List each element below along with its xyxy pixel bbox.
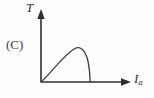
y-axis-arrowhead [37, 9, 44, 19]
torque-curve [41, 48, 90, 82]
axes-group [37, 9, 131, 86]
figure-option-c: (C) T Ia [0, 0, 154, 98]
y-axis-label: T [26, 0, 33, 16]
x-axis-label-subscript: a [138, 77, 143, 87]
option-label: (C) [6, 37, 23, 53]
x-axis-arrowhead [121, 78, 131, 85]
curve-group [41, 48, 90, 82]
x-axis-label: Ia [134, 71, 143, 87]
